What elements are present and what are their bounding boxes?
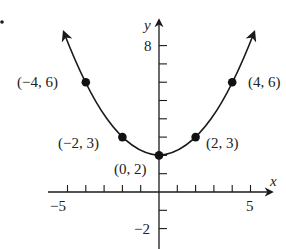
y-ticks — [159, 46, 167, 229]
point-label-neg2-3: (−2, 3) — [58, 135, 99, 152]
point-label-0-2: (0, 2) — [114, 161, 147, 178]
point-neg2-3 — [118, 133, 127, 142]
point-4-6 — [228, 78, 237, 87]
point-label-neg4-6: (−4, 6) — [17, 74, 58, 91]
y-tick-label-neg2: −2 — [134, 221, 150, 237]
point-0-2 — [155, 151, 164, 160]
x-axis-label: x — [269, 173, 277, 189]
x-tick-label-neg5: −5 — [50, 198, 66, 214]
point-neg4-6 — [82, 78, 91, 87]
point-label-4-6: (4, 6) — [248, 74, 281, 91]
y-axis-label: y — [142, 17, 151, 33]
point-label-2-3: (2, 3) — [206, 135, 239, 152]
parabola-graph: −5 5 x 8 −2 y (−4, 6) (4, 6) ( — [0, 0, 286, 249]
x-tick-label-5: 5 — [246, 198, 254, 214]
y-axis: 8 −2 y — [134, 17, 167, 249]
point-2-3 — [191, 133, 200, 142]
bullet-marker — [0, 20, 4, 24]
y-tick-label-8: 8 — [144, 38, 152, 54]
x-axis: −5 5 x — [48, 173, 277, 214]
